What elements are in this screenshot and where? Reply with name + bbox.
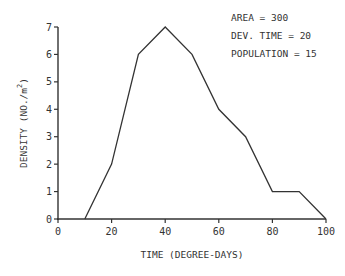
annotation-area: AREA = 300 — [231, 12, 288, 23]
annotation-population: POPULATION = 15 — [231, 48, 317, 59]
x-tick-label: 40 — [159, 226, 171, 237]
y-tick-label: 7 — [46, 22, 52, 33]
y-tick-label: 2 — [46, 159, 52, 170]
y-axis-label-close: ) — [18, 78, 29, 84]
x-tick-label: 80 — [266, 226, 278, 237]
y-axis-label: DENSITY (NO./m2) — [16, 78, 29, 168]
y-tick-label: 4 — [46, 104, 52, 115]
y-tick-label: 3 — [46, 131, 52, 142]
annotation-dev-time: DEV. TIME = 20 — [231, 30, 311, 41]
x-axis-label: TIME (DEGREE-DAYS) — [141, 249, 244, 260]
y-tick-label: 0 — [46, 214, 52, 225]
y-axis-label-main: DENSITY (NO./m — [18, 88, 29, 168]
x-tick-label: 20 — [106, 226, 118, 237]
y-tick-label: 6 — [46, 49, 52, 60]
x-tick-label: 100 — [317, 226, 335, 237]
y-tick-label: 1 — [46, 186, 52, 197]
y-tick-label: 5 — [46, 76, 52, 87]
density-chart: 01234567020406080100 TIME (DEGREE-DAYS) … — [0, 0, 345, 276]
x-tick-label: 60 — [213, 226, 225, 237]
x-tick-label: 0 — [55, 226, 61, 237]
